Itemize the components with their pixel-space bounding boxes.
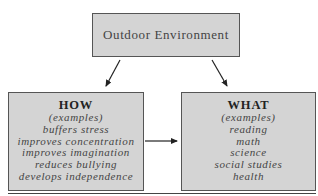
what-item: reading bbox=[182, 124, 315, 136]
arrow-top-to-what bbox=[212, 60, 227, 86]
what-item: health bbox=[182, 171, 315, 183]
bottom-divider bbox=[8, 193, 316, 194]
outdoor-environment-label: Outdoor Environment bbox=[103, 27, 229, 43]
how-item: buffers stress bbox=[9, 124, 143, 136]
what-box: WHAT (examples) reading math science soc… bbox=[181, 92, 316, 191]
arrow-top-to-how bbox=[106, 60, 120, 86]
outdoor-environment-box: Outdoor Environment bbox=[92, 13, 240, 57]
how-item: develops independence bbox=[9, 171, 143, 183]
how-box: HOW (examples) buffers stress improves c… bbox=[8, 92, 144, 191]
